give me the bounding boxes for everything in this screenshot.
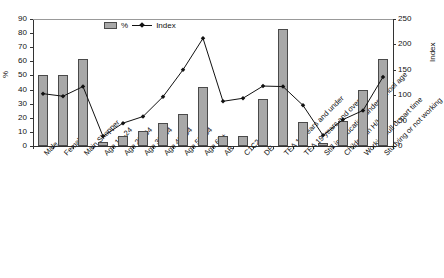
y-tick-label-left: 80 <box>5 29 27 37</box>
index-data-point <box>81 84 86 89</box>
y-tick-label-right: 250 <box>398 15 422 23</box>
y-tick-label-left: 10 <box>5 128 27 136</box>
index-data-point <box>221 99 226 104</box>
index-data-point <box>261 84 266 89</box>
index-line-path <box>43 38 383 136</box>
y-tick-label-left: 50 <box>5 71 27 79</box>
index-data-point <box>41 91 46 96</box>
y-tick-label-left: 60 <box>5 57 27 65</box>
index-data-point <box>381 75 386 80</box>
index-data-point <box>361 108 366 113</box>
plot-area <box>33 19 393 146</box>
y-axis-right-title: Index <box>428 42 437 62</box>
y-tick-label-left: 70 <box>5 43 27 51</box>
y-tick-label-right: 200 <box>398 40 422 48</box>
y-tick-label-left: 90 <box>5 15 27 23</box>
y-tick-label-left: 40 <box>5 86 27 94</box>
y-tick-label-left: 30 <box>5 100 27 108</box>
y-tick-label-left: 0 <box>5 142 27 150</box>
index-line-series <box>33 19 393 146</box>
index-data-point <box>61 94 66 99</box>
index-data-point <box>241 96 246 101</box>
x-tick-mark <box>33 146 34 149</box>
y-tick-label-left: 20 <box>5 114 27 122</box>
